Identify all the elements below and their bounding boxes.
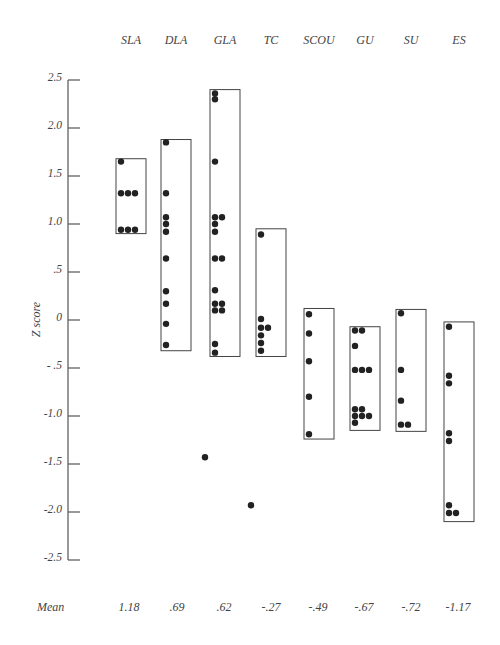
range-box-dla	[161, 140, 191, 351]
data-point	[352, 343, 358, 349]
data-point	[359, 413, 365, 419]
data-point	[118, 158, 124, 164]
dot-box-chart: SLA DLA GLA TC SCOU GU SU ES 2.5 2.0 1.5…	[0, 0, 500, 645]
data-point	[212, 96, 218, 102]
mean-value-sla: 1.18	[104, 600, 154, 615]
mean-value-dla: .69	[152, 600, 202, 615]
outlier-point	[202, 454, 208, 460]
data-point	[398, 367, 404, 373]
category-label-gla: GLA	[200, 33, 250, 48]
data-point	[118, 227, 124, 233]
category-label-tc: TC	[246, 33, 296, 48]
data-point	[219, 307, 225, 313]
mean-value-tc: -.27	[246, 600, 296, 615]
data-point	[219, 300, 225, 306]
data-point	[212, 214, 218, 220]
category-label-sla: SLA	[106, 33, 156, 48]
data-point	[352, 367, 358, 373]
range-box-scou	[304, 308, 334, 439]
data-point	[212, 158, 218, 164]
data-point	[212, 341, 218, 347]
data-point	[398, 421, 404, 427]
data-point	[446, 324, 452, 330]
data-point	[163, 321, 169, 327]
range-box-es	[444, 322, 474, 522]
y-tick-label: 1.5	[20, 167, 62, 179]
category-label-scou: SCOU	[294, 33, 344, 48]
data-point	[352, 327, 358, 333]
data-point	[163, 255, 169, 261]
mean-row-label: Mean	[37, 600, 64, 615]
data-point	[258, 324, 264, 330]
category-label-es: ES	[434, 33, 484, 48]
y-axis-title: Z score	[29, 298, 44, 342]
data-point	[125, 190, 131, 196]
data-point	[163, 288, 169, 294]
data-point	[212, 300, 218, 306]
data-point	[306, 358, 312, 364]
data-point	[453, 510, 459, 516]
data-point	[163, 221, 169, 227]
y-tick-label: -2.5	[20, 551, 62, 563]
data-point	[212, 255, 218, 261]
data-point	[212, 307, 218, 313]
data-point	[366, 413, 372, 419]
data-point	[398, 310, 404, 316]
data-point	[212, 349, 218, 355]
y-tick-label: .5	[20, 263, 62, 275]
data-point	[258, 332, 264, 338]
data-point	[219, 255, 225, 261]
data-point	[446, 438, 452, 444]
data-point	[306, 431, 312, 437]
data-point	[359, 327, 365, 333]
y-tick-label: 2.0	[20, 119, 62, 131]
data-point	[446, 502, 452, 508]
data-point	[366, 367, 372, 373]
data-point	[306, 394, 312, 400]
data-point	[163, 139, 169, 145]
data-point	[405, 421, 411, 427]
data-point	[258, 231, 264, 237]
data-point	[306, 330, 312, 336]
data-point	[163, 342, 169, 348]
y-tick-label: 1.0	[20, 215, 62, 227]
data-point	[163, 300, 169, 306]
data-point	[398, 397, 404, 403]
data-point	[446, 372, 452, 378]
mean-value-gla: .62	[199, 600, 249, 615]
plot-area	[0, 0, 500, 645]
data-point	[118, 190, 124, 196]
data-point	[258, 340, 264, 346]
data-point	[132, 190, 138, 196]
data-point	[359, 406, 365, 412]
y-tick-label: -1.5	[20, 455, 62, 467]
y-tick-label: - .5	[20, 359, 62, 371]
data-point	[352, 406, 358, 412]
data-point	[352, 413, 358, 419]
data-point	[212, 90, 218, 96]
data-point	[163, 190, 169, 196]
data-point	[125, 227, 131, 233]
data-point	[446, 380, 452, 386]
category-label-su: SU	[386, 33, 436, 48]
y-tick-label: -1.0	[20, 407, 62, 419]
data-point	[163, 228, 169, 234]
data-point	[163, 214, 169, 220]
data-point	[446, 430, 452, 436]
data-point	[265, 324, 271, 330]
data-point	[219, 214, 225, 220]
data-point	[306, 311, 312, 317]
mean-value-gu: -.67	[339, 600, 389, 615]
mean-value-su: -.72	[386, 600, 436, 615]
data-point	[446, 510, 452, 516]
data-point	[212, 228, 218, 234]
category-label-dla: DLA	[151, 33, 201, 48]
y-tick-label: 2.5	[20, 71, 62, 83]
data-point	[258, 316, 264, 322]
outlier-point	[248, 502, 254, 508]
y-tick-label: -2.0	[20, 503, 62, 515]
category-label-gu: GU	[340, 33, 390, 48]
data-point	[212, 287, 218, 293]
data-point	[352, 420, 358, 426]
mean-value-scou: -.49	[293, 600, 343, 615]
